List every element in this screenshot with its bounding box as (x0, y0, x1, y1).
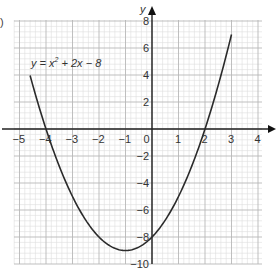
y-tick-label: 4 (143, 70, 149, 81)
x-tick-label: −3 (66, 134, 79, 145)
x-tick-label: −2 (92, 134, 105, 145)
y-tick-label: −8 (136, 232, 149, 243)
y-tick-label: −4 (136, 178, 149, 189)
y-axis-label: y (140, 3, 146, 15)
x-tick-label: 2 (202, 134, 208, 145)
x-tick-label: −1 (119, 134, 132, 145)
y-tick-label: 8 (143, 16, 149, 27)
x-tick-label: 0 (144, 134, 150, 145)
y-tick-label: −2 (136, 151, 149, 162)
y-tick-label: 6 (143, 43, 149, 54)
x-tick-label: −4 (39, 134, 52, 145)
x-tick-label: 3 (228, 134, 234, 145)
y-tick-label: −10 (130, 259, 149, 270)
y-tick-label: 2 (143, 97, 149, 108)
y-tick-label: −6 (136, 205, 149, 216)
x-tick-label: 4 (255, 134, 261, 145)
equation-label: y = x2 + 2x − 8 (31, 56, 101, 69)
x-tick-label: −5 (13, 134, 26, 145)
x-tick-label: 1 (175, 134, 181, 145)
